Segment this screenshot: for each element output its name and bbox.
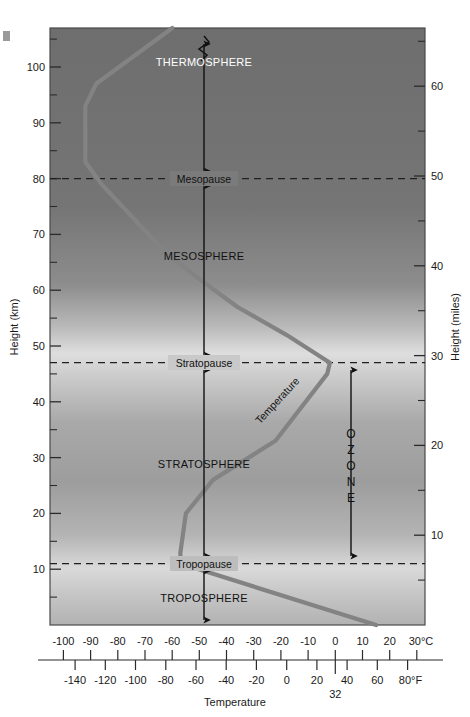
left-axis-label-30: 30 <box>33 452 45 464</box>
right-axis-title: Height (miles) <box>449 293 461 361</box>
bottom-axis-title: Temperature <box>204 696 266 708</box>
freezing-point-label: 32 <box>329 688 341 700</box>
celsius-label--30: -30 <box>246 635 262 647</box>
ozone-letter-0: O <box>346 427 355 441</box>
celsius-label--70: -70 <box>137 635 153 647</box>
atmosphere-temperature-profile-figure: 10 20 30 40 50 60 70 80 90 100 Height (k… <box>0 0 470 717</box>
right-axis-label-60: 60 <box>431 80 443 92</box>
fahrenheit-label--100: -100 <box>124 674 146 686</box>
right-axis-label-50: 50 <box>431 170 443 182</box>
fahrenheit-label-20: 20 <box>311 674 323 686</box>
left-axis-label-60: 60 <box>33 284 45 296</box>
plot-panel <box>50 28 425 625</box>
celsius-label-30: 30°C <box>409 635 434 647</box>
fahrenheit-label--140: -140 <box>64 674 86 686</box>
celsius-label--80: -80 <box>110 635 126 647</box>
fahrenheit-label--20: -20 <box>248 674 264 686</box>
right-axis-label-20: 20 <box>431 439 443 451</box>
fahrenheit-label--80: -80 <box>158 674 174 686</box>
left-axis-label-70: 70 <box>33 228 45 240</box>
ozone-letter-1: Z <box>347 443 354 457</box>
left-axis-label-50: 50 <box>33 340 45 352</box>
image-artifact-mark <box>3 31 10 41</box>
ozone-letter-3: N <box>347 475 356 489</box>
right-axis-label-30: 30 <box>431 350 443 362</box>
boundary-label-mesopause: Mesopause <box>177 173 231 185</box>
left-axis-title: Height (km) <box>8 299 20 356</box>
celsius-label--60: -60 <box>164 635 180 647</box>
boundary-label-tropopause: Tropopause <box>176 558 232 570</box>
left-axis-height-km: 10 20 30 40 50 60 70 80 90 100 Height (k… <box>8 39 61 597</box>
celsius-label--20: -20 <box>273 635 289 647</box>
celsius-label-20: 20 <box>384 635 396 647</box>
ozone-letter-4: E <box>347 491 355 505</box>
left-axis-label-90: 90 <box>33 117 45 129</box>
celsius-label--100: -100 <box>52 635 74 647</box>
layer-label-thermosphere: THERMOSPHERE <box>156 56 253 68</box>
left-axis-label-20: 20 <box>33 507 45 519</box>
left-axis-label-100: 100 <box>27 61 45 73</box>
fahrenheit-label-60: 60 <box>371 674 383 686</box>
celsius-label--10: -10 <box>300 635 316 647</box>
ozone-letter-2: O <box>346 459 355 473</box>
left-axis-label-10: 10 <box>33 563 45 575</box>
plot-background <box>50 28 425 625</box>
layer-label-troposphere: TROPOSPHERE <box>160 592 248 604</box>
fahrenheit-label-40: 40 <box>341 674 353 686</box>
left-axis-label-80: 80 <box>33 173 45 185</box>
layer-label-stratosphere: STRATOSPHERE <box>158 458 250 470</box>
fahrenheit-label-80: 80°F <box>399 674 423 686</box>
bottom-temperature-axis: -100 -90 -80 -70 -60 -50 -40 -30 -20 -10… <box>38 635 443 708</box>
layer-label-mesosphere: MESOSPHERE <box>164 250 245 262</box>
fahrenheit-label--120: -120 <box>94 674 116 686</box>
boundary-label-stratopause: Stratopause <box>176 357 233 369</box>
fahrenheit-label-0: 0 <box>284 674 290 686</box>
left-axis-label-40: 40 <box>33 396 45 408</box>
celsius-label--50: -50 <box>191 635 207 647</box>
celsius-label--90: -90 <box>83 635 99 647</box>
right-axis-label-10: 10 <box>431 529 443 541</box>
celsius-label--40: -40 <box>219 635 235 647</box>
fahrenheit-label--40: -40 <box>218 674 234 686</box>
celsius-label-0: 0 <box>332 635 338 647</box>
right-axis-label-40: 40 <box>431 260 443 272</box>
chart-canvas: 10 20 30 40 50 60 70 80 90 100 Height (k… <box>0 0 470 717</box>
celsius-label-10: 10 <box>356 635 368 647</box>
fahrenheit-label--60: -60 <box>188 674 204 686</box>
